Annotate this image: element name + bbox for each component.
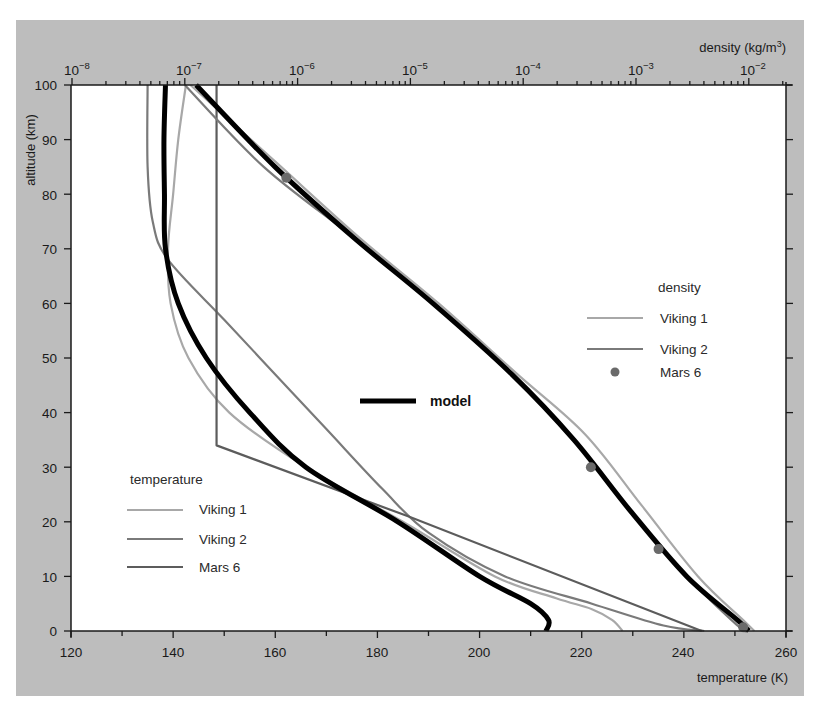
legend-label: Mars 6 bbox=[199, 560, 240, 575]
x-tick-label: 220 bbox=[570, 645, 593, 660]
y-tick-label: 10 bbox=[42, 570, 57, 585]
x-axis-title: temperature (K) bbox=[697, 670, 788, 685]
y-tick-label: 20 bbox=[42, 515, 57, 530]
y-tick-label: 40 bbox=[42, 406, 57, 421]
density-tick-label: 10−5 bbox=[402, 60, 428, 78]
density-tick-label: 10−3 bbox=[628, 60, 654, 78]
y-tick-label: 80 bbox=[42, 188, 57, 203]
temperature-legend-title: temperature bbox=[130, 472, 203, 487]
density-tick-label: 10−2 bbox=[740, 60, 766, 78]
density-axis-title: density (kg/m3) bbox=[699, 39, 786, 55]
plot-area bbox=[71, 85, 786, 631]
x-tick-label: 180 bbox=[366, 645, 389, 660]
x-tick-label: 140 bbox=[162, 645, 185, 660]
legend-label: Viking 2 bbox=[660, 342, 708, 357]
mars6-density-point bbox=[281, 173, 291, 183]
x-tick-label: 260 bbox=[775, 645, 798, 660]
legend-label: Viking 2 bbox=[199, 532, 247, 547]
chart-canvas: 0 10 20 30 40 50 60 70 80 90 100 altitud… bbox=[0, 0, 815, 720]
x-tick-label: 120 bbox=[60, 645, 83, 660]
y-tick-label: 100 bbox=[34, 78, 57, 93]
density-tick-label: 10−4 bbox=[515, 60, 541, 78]
density-legend-title: density bbox=[658, 280, 701, 295]
x-tick-label: 240 bbox=[672, 645, 695, 660]
density-tick-label: 10−6 bbox=[289, 60, 315, 78]
legend-label: Viking 1 bbox=[199, 502, 247, 517]
y-axis-title: altitude (km) bbox=[23, 114, 38, 186]
y-tick-label: 90 bbox=[42, 133, 57, 148]
mars6-density-point bbox=[654, 544, 664, 554]
y-tick-label: 50 bbox=[42, 351, 57, 366]
legend-label: Viking 1 bbox=[660, 311, 708, 326]
x-axis-labels: 120 140 160 180 200 220 240 260 temperat… bbox=[60, 645, 798, 685]
legend-label-model: model bbox=[430, 393, 471, 409]
y-axis-labels: 0 10 20 30 40 50 60 70 80 90 100 altitud… bbox=[23, 78, 57, 639]
mars6-density-point bbox=[586, 462, 596, 472]
y-tick-label: 60 bbox=[42, 297, 57, 312]
density-tick-label: 10−7 bbox=[176, 60, 202, 78]
density-tick-label: 10−8 bbox=[64, 60, 90, 78]
legend-label: Mars 6 bbox=[660, 365, 701, 380]
x-tick-label: 160 bbox=[264, 645, 287, 660]
x-tick-label: 200 bbox=[468, 645, 491, 660]
density-axis-labels: 10−8 10−7 10−6 10−5 10−4 10−3 10−2 densi… bbox=[64, 39, 786, 78]
y-tick-label: 30 bbox=[42, 461, 57, 476]
y-tick-label: 70 bbox=[42, 242, 57, 257]
y-tick-label: 0 bbox=[49, 624, 57, 639]
legend-dot-mars6 bbox=[611, 368, 620, 377]
